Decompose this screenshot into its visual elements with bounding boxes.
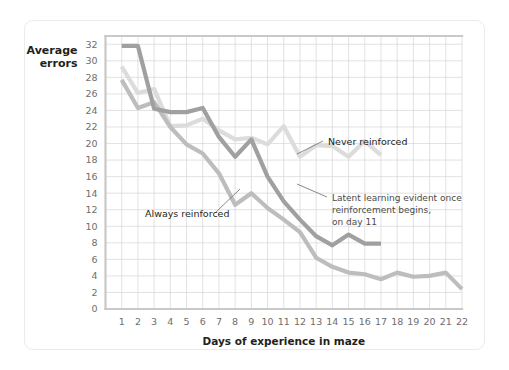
x-axis-tick-label: 15: [343, 316, 355, 327]
x-axis-tick-label: 17: [375, 316, 387, 327]
x-axis-tick-label: 11: [278, 316, 290, 327]
data-series-group: [122, 46, 462, 289]
x-axis-tick-label: 3: [151, 316, 157, 327]
x-axis-tick-label: 8: [232, 316, 238, 327]
x-axis-tick-label: 10: [261, 316, 273, 327]
annotation-label-latent-learning: Latent learning evident once: [332, 193, 462, 203]
x-axis-tick-labels: 12345678910111213141516171819202122: [119, 316, 468, 327]
y-axis-title: Averageerrors: [27, 44, 78, 70]
y-axis-tick-label: 22: [85, 121, 97, 132]
y-axis-tick-label: 24: [85, 105, 97, 116]
annotation-latent-learning: Latent learning evident oncereinforcemen…: [297, 184, 462, 227]
x-axis-tick-label: 18: [391, 316, 403, 327]
x-axis-tick-label: 14: [326, 316, 338, 327]
x-axis-tick-label: 13: [310, 316, 322, 327]
x-axis-tick-label: 7: [216, 316, 222, 327]
annotation-label-never-reinforced: Never reinforced: [328, 136, 408, 147]
annotation-label-latent-learning: on day 11: [332, 217, 377, 227]
y-axis-tick-label: 20: [85, 138, 97, 149]
x-axis-tick-label: 20: [424, 316, 436, 327]
y-axis-tick-label: 4: [91, 270, 97, 281]
x-axis-tick-label: 6: [200, 316, 206, 327]
y-axis-tick-label: 12: [85, 204, 97, 215]
grid-lines: [106, 36, 463, 309]
y-axis-title-line1: Average: [27, 44, 78, 57]
y-axis-tick-labels: 02468101214161820222426283032: [85, 39, 97, 315]
y-axis-tick-label: 8: [91, 237, 97, 248]
annotation-label-always-reinforced: Always reinforced: [145, 208, 229, 219]
figure-frame: 0246810121416182022242628303212345678910…: [24, 20, 485, 350]
annotation-leader-line-latent-learning: [297, 184, 327, 197]
y-axis-tick-label: 14: [85, 188, 97, 199]
y-axis-tick-label: 16: [85, 171, 97, 182]
y-axis-tick-label: 10: [85, 221, 97, 232]
x-axis-tick-label: 19: [407, 316, 419, 327]
x-axis-tick-label: 5: [183, 316, 189, 327]
x-axis-tick-label: 2: [135, 316, 141, 327]
average-errors-line-chart: 0246810121416182022242628303212345678910…: [25, 21, 486, 351]
x-axis-tick-label: 1: [119, 316, 125, 327]
x-axis-tick-label: 22: [456, 316, 468, 327]
y-axis-tick-label: 0: [91, 303, 97, 314]
y-axis-tick-label: 6: [91, 254, 97, 265]
x-axis-tick-label: 16: [359, 316, 371, 327]
x-axis-tick-label: 4: [167, 316, 173, 327]
y-axis-tick-label: 28: [85, 72, 97, 83]
x-axis-tick-label: 21: [440, 316, 452, 327]
y-axis-tick-label: 30: [85, 55, 97, 66]
annotation-label-latent-learning: reinforcement begins,: [332, 205, 431, 215]
x-axis-title: Days of experience in maze: [202, 335, 365, 347]
y-axis-tick-label: 32: [85, 39, 97, 50]
y-axis-tick-label: 26: [85, 88, 97, 99]
x-axis-tick-label: 9: [248, 316, 254, 327]
y-axis-tick-label: 18: [85, 154, 97, 165]
y-axis-tick-label: 2: [91, 287, 97, 298]
y-axis-title-line2: errors: [40, 57, 78, 70]
x-axis-tick-label: 12: [294, 316, 306, 327]
